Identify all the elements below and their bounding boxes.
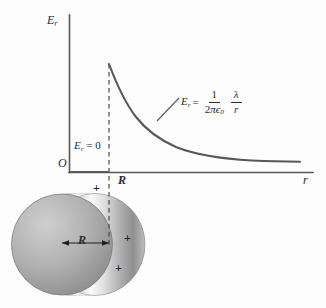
cylinder-radius-label: R [78,234,86,246]
equation-equals: = [193,97,199,108]
x-axis-label: r [303,174,308,186]
equation-leader-line [157,98,179,121]
field-equation: Er = 1 2πϵ0 λ r [181,89,243,115]
charge-plus-sign: + [93,182,100,194]
y-axis-label: Er [47,14,57,26]
charge-plus-sign: + [115,262,122,274]
fraction-numerator: 1 [209,89,221,103]
figure-canvas [0,0,326,308]
cylinder-front-face [12,194,113,295]
r-tick-label: R [118,174,126,186]
charge-plus-sign: + [124,232,131,244]
origin-label: O [58,157,67,169]
fraction-denominator: 2πϵ0 [202,103,227,116]
equation-lhs: Er [181,96,191,107]
physics-figure: Er r O R Er = 0 R Er = 1 2πϵ0 λ r + + + [0,0,326,308]
inside-field-zero-label: Er = 0 [74,140,101,151]
fraction-denominator-r: r [231,103,241,116]
fraction-numerator-lambda: λ [231,89,242,103]
equation-fraction-lambda-over-r: λ r [231,89,242,115]
equation-fraction-constant: 1 2πϵ0 [202,89,227,115]
